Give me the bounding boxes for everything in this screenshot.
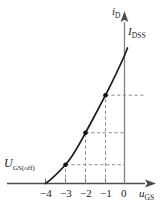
ugs-off-symbol: U bbox=[4, 156, 13, 170]
dashed-projection-lines bbox=[66, 95, 146, 183]
x-tick-label-zero: 0 bbox=[121, 188, 127, 199]
y-axis-label-subscript: D bbox=[115, 11, 121, 20]
transfer-characteristic-curve bbox=[46, 48, 128, 184]
x-axis-arrowhead bbox=[145, 180, 156, 188]
x-tick-label-minus4: −4 bbox=[40, 188, 52, 199]
x-tick-label-minus1: −1 bbox=[100, 188, 112, 199]
x-axis-ticks bbox=[46, 179, 106, 184]
y-axis-arrowhead bbox=[121, 11, 129, 22]
idss-subscript: DSS bbox=[132, 31, 146, 40]
x-axis-label: uGS bbox=[139, 188, 154, 199]
marker-minus1 bbox=[103, 93, 108, 98]
x-axis-label-symbol: u bbox=[139, 187, 145, 199]
marker-minus2 bbox=[83, 131, 88, 136]
x-axis-label-subscript: GS bbox=[145, 193, 155, 202]
x-tick-label-minus3: −3 bbox=[60, 188, 72, 199]
idss-annotation: IDSS bbox=[128, 26, 146, 37]
x-tick-label-minus2: −2 bbox=[80, 188, 92, 199]
y-axis-label: iD bbox=[112, 6, 121, 17]
jfet-transfer-characteristic-figure: iD IDSS uGS UGS(off) −4 −3 −2 −1 0 bbox=[0, 0, 164, 209]
ugs-off-subscript: GS(off) bbox=[13, 164, 35, 172]
ugs-off-annotation: UGS(off) bbox=[4, 157, 35, 169]
marker-minus3 bbox=[63, 162, 68, 167]
